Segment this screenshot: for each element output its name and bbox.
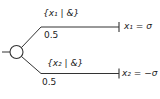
bottom-branch-probability: 0.5	[42, 77, 56, 88]
bottom-branch-diagonal	[22, 57, 42, 74]
top-branch-probability: 0.5	[44, 30, 58, 41]
bottom-branch-outcome: x₂ = −σ	[122, 68, 157, 79]
top-branch-outcome: x₁ = σ	[124, 21, 152, 32]
chance-node-circle	[10, 46, 23, 59]
branching-diagram: {x₁ | &} 0.5 x₁ = σ {x₂ | &} 0.5 x₂ = −σ	[0, 0, 160, 99]
bottom-branch-condition-label: {x₂ | &}	[47, 58, 83, 69]
diagram-lines	[0, 0, 160, 99]
top-branch-condition-label: {x₁ | &}	[43, 8, 79, 19]
top-branch-diagonal	[22, 27, 42, 48]
